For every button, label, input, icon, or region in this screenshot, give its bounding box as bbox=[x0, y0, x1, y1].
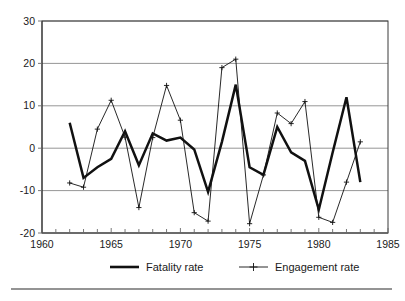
y-tick-label-20: 20 bbox=[23, 57, 35, 69]
x-tick-label-1970: 1970 bbox=[169, 238, 193, 250]
y-tick-label-10: 10 bbox=[23, 99, 35, 111]
y-tick-label--20: -20 bbox=[20, 227, 35, 239]
x-tick-label-1960: 1960 bbox=[30, 238, 54, 250]
x-tick-label-1965: 1965 bbox=[100, 238, 124, 250]
y-tick-label--10: -10 bbox=[20, 184, 35, 196]
y-tick-label-0: 0 bbox=[29, 142, 35, 154]
legend-label-fatality-rate: Fatality rate bbox=[146, 261, 203, 273]
legend-label-engagement-rate: Engagement rate bbox=[275, 261, 359, 273]
chart-figure: -20-100102030 196019651970197519801985 F… bbox=[0, 0, 405, 301]
x-tick-label-1985: 1985 bbox=[376, 238, 400, 250]
x-axis-labels: 196019651970197519801985 bbox=[30, 238, 400, 250]
x-tick-label-1980: 1980 bbox=[307, 238, 331, 250]
line-chart-svg: -20-100102030 196019651970197519801985 F… bbox=[0, 0, 405, 301]
legend-marker-engagement-rate bbox=[250, 263, 258, 271]
y-axis-ticks: -20-100102030 bbox=[20, 15, 42, 239]
chart-legend: Fatality rate Engagement rate bbox=[110, 261, 359, 273]
x-tick-label-1975: 1975 bbox=[238, 238, 262, 250]
plot-background bbox=[42, 21, 388, 233]
y-tick-label-30: 30 bbox=[23, 15, 35, 27]
